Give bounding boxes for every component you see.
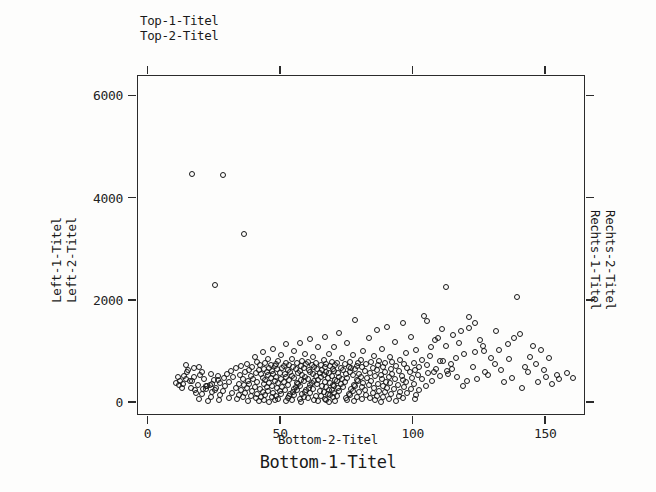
scatter-point xyxy=(400,320,406,326)
scatter-point xyxy=(205,398,211,404)
scatter-point xyxy=(570,375,576,381)
scatter-point xyxy=(493,328,499,334)
y-ticklabel-1: 2000 xyxy=(69,292,123,307)
scatter-point xyxy=(208,371,214,377)
scatter-point xyxy=(212,282,218,288)
scatter-point xyxy=(201,376,207,382)
scatter-point xyxy=(326,351,332,357)
scatter-point xyxy=(350,352,356,358)
scatter-point xyxy=(400,395,406,401)
right-tick-3 xyxy=(586,95,594,97)
scatter-point xyxy=(554,372,560,378)
right-title-1: Rechts-2-Titel xyxy=(603,185,618,335)
scatter-point xyxy=(344,340,350,346)
scatter-point xyxy=(466,325,472,331)
scatter-point xyxy=(527,354,533,360)
scatter-point xyxy=(514,294,520,300)
scatter-point xyxy=(297,340,303,346)
scatter-point xyxy=(427,353,433,359)
top-tick-3 xyxy=(544,66,546,74)
scatter-point xyxy=(234,396,240,402)
x-ticklabel-2: 100 xyxy=(401,426,424,441)
scatter-point xyxy=(266,399,272,405)
scatter-point xyxy=(272,397,278,403)
scatter-point xyxy=(270,346,276,352)
scatter-point xyxy=(456,340,462,346)
scatter-point xyxy=(474,376,480,382)
scatter-point xyxy=(392,339,398,345)
scatter-point xyxy=(429,378,435,384)
scatter-point xyxy=(535,379,541,385)
scatter-point xyxy=(322,334,328,340)
scatter-point xyxy=(212,387,218,393)
scatter-point xyxy=(374,327,380,333)
scatter-point xyxy=(472,349,478,355)
scatter-point xyxy=(501,379,507,385)
x-ticklabel-3: 150 xyxy=(534,426,557,441)
scatter-point xyxy=(412,396,418,402)
scatter-point xyxy=(401,384,407,390)
scatter-point xyxy=(260,349,266,355)
scatter-point xyxy=(305,395,311,401)
scatter-point xyxy=(331,344,337,350)
scatter-point xyxy=(191,365,197,371)
bottom-title-1: Bottom-1-Titel xyxy=(0,452,656,472)
y-tick-2 xyxy=(128,197,136,199)
scatter-point xyxy=(379,346,385,352)
right-title-2: Rechts-1-Titel xyxy=(588,185,603,335)
scatter-point xyxy=(431,369,437,375)
scatter-point xyxy=(283,341,289,347)
scatter-point xyxy=(509,375,515,381)
scatter-point xyxy=(541,367,547,373)
right-tick-0 xyxy=(586,401,594,403)
scatter-point xyxy=(453,355,459,361)
x-tick-1 xyxy=(279,416,281,424)
scatter-point xyxy=(199,369,205,375)
x-ticklabel-1: 50 xyxy=(273,426,288,441)
scatter-points xyxy=(138,76,584,414)
plot-area xyxy=(137,75,585,415)
scatter-point xyxy=(460,383,466,389)
scatter-point xyxy=(454,374,460,380)
scatter-point xyxy=(533,361,539,367)
scatter-point xyxy=(443,284,449,290)
scatter-point xyxy=(435,335,441,341)
scatter-point xyxy=(352,317,358,323)
top-tick-1 xyxy=(279,66,281,74)
scatter-point xyxy=(366,335,372,341)
scatter-point xyxy=(498,367,504,373)
scatter-point xyxy=(424,362,430,368)
scatter-point xyxy=(419,357,425,363)
scatter-point xyxy=(278,352,284,358)
left-titles: Left-1-Titel Left-2-Titel xyxy=(49,190,79,330)
scatter-point xyxy=(443,343,449,349)
scatter-point xyxy=(209,381,215,387)
scatter-point xyxy=(291,348,297,354)
scatter-point xyxy=(189,171,195,177)
scatter-point xyxy=(413,347,419,353)
scatter-point xyxy=(336,330,342,336)
scatter-point xyxy=(179,385,185,391)
scatter-point xyxy=(538,347,544,353)
scatter-point xyxy=(196,396,202,402)
scatter-point xyxy=(310,354,316,360)
scatter-point xyxy=(289,397,295,403)
scatter-point xyxy=(283,398,289,404)
scatter-point xyxy=(440,358,446,364)
scatter-point xyxy=(450,332,456,338)
scatter-point xyxy=(386,396,392,402)
left-title-2: Left-2-Titel xyxy=(64,190,79,330)
top-tick-2 xyxy=(412,66,414,74)
scatter-point xyxy=(216,397,222,403)
x-tick-0 xyxy=(147,416,149,424)
scatter-point xyxy=(256,398,262,404)
scatter-point xyxy=(307,336,313,342)
y-ticklabel-2: 4000 xyxy=(69,190,123,205)
scatter-point xyxy=(492,361,498,367)
scatter-point xyxy=(403,350,409,356)
scatter-point xyxy=(359,396,365,402)
scatter-point xyxy=(466,314,472,320)
scatter-point xyxy=(488,355,494,361)
scatter-point xyxy=(564,370,570,376)
scatter-point xyxy=(181,373,187,379)
